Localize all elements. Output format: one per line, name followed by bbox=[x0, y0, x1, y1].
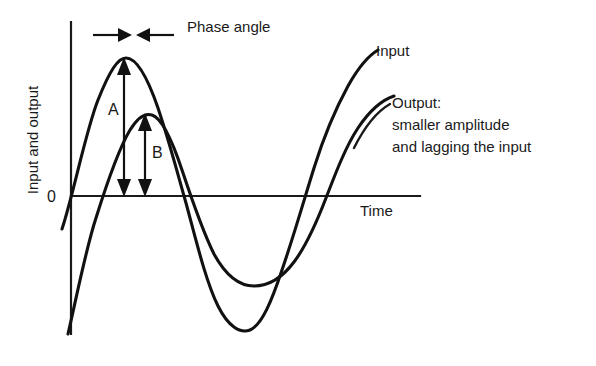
phase-angle-left-arrowhead bbox=[118, 28, 132, 42]
diagram-canvas: Input and output 0 Time Phase angle A B … bbox=[0, 0, 596, 366]
input-curve-label: Input bbox=[376, 42, 410, 59]
amplitude-b-bottom-arrowhead bbox=[138, 179, 152, 197]
amplitude-b-label: B bbox=[152, 144, 163, 161]
origin-label: 0 bbox=[47, 188, 56, 205]
output-curve-label-line1: Output: bbox=[392, 94, 441, 111]
y-axis-label: Input and output bbox=[24, 85, 41, 194]
x-axis-label: Time bbox=[360, 202, 393, 219]
phase-lag-diagram: Input and output 0 Time Phase angle A B … bbox=[0, 0, 596, 366]
output-waveform bbox=[68, 96, 394, 334]
output-curve-label-line2: smaller amplitude bbox=[392, 116, 510, 133]
output-curve-label-line3: and lagging the input bbox=[392, 138, 532, 155]
phase-angle-right-arrowhead bbox=[136, 28, 150, 42]
input-waveform bbox=[62, 50, 378, 331]
amplitude-a-label: A bbox=[108, 101, 119, 118]
amplitude-a-bottom-arrowhead bbox=[117, 179, 131, 197]
phase-angle-label: Phase angle bbox=[187, 18, 270, 35]
